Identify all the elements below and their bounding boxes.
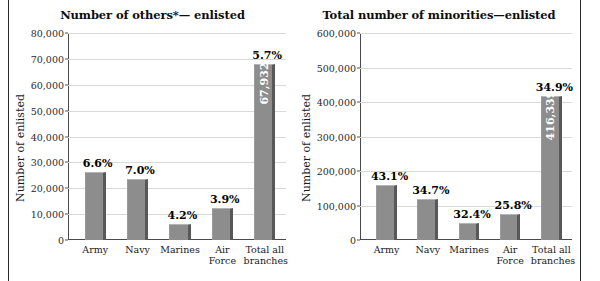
x-tick-label: Marines	[448, 244, 489, 255]
y-tick-label: 70,000	[31, 53, 64, 64]
y-axis-label: Number of enlisted	[14, 94, 27, 202]
x-tick-label: AirForce	[490, 244, 531, 266]
x-tick-label: Total allbranches	[531, 244, 572, 266]
bar[interactable]	[169, 224, 190, 240]
bar-slot[interactable]: 32.4%Marines	[448, 33, 489, 240]
bar-slot[interactable]: 4.2%Marines	[159, 33, 201, 240]
bar-series: 43.1%Army34.7%Navy32.4%Marines25.8%AirFo…	[360, 33, 572, 240]
bar-value-label: 416,339	[544, 91, 557, 141]
x-tick-label: Navy	[116, 244, 158, 255]
bar[interactable]	[459, 223, 480, 240]
bar[interactable]	[376, 185, 397, 240]
x-tick-label: Total allbranches	[244, 244, 286, 266]
y-axis-label: Number of enlisted	[300, 94, 313, 202]
chart-panel-minorities: Total number of minorities—enlisted Numb…	[298, 0, 580, 281]
bar-slot[interactable]: 6.6%Army	[74, 33, 116, 240]
bar-percent-label: 43.1%	[371, 170, 408, 183]
chart-title: Number of others*— enlisted	[10, 8, 295, 22]
bar-percent-label: 25.8%	[495, 199, 532, 212]
x-tick-label: Army	[366, 244, 407, 255]
y-tick-label: 30,000	[31, 157, 64, 168]
bar-slot[interactable]: 34.7%Navy	[407, 33, 448, 240]
bar-slot[interactable]: 67,9325.7%Total allbranches	[244, 33, 286, 240]
bar-slot[interactable]: 7.0%Navy	[116, 33, 158, 240]
y-tick-label: 0	[58, 235, 64, 246]
y-tick-label: 600,000	[317, 28, 356, 39]
y-tick-label: 50,000	[31, 105, 64, 116]
right-border-rule	[580, 0, 581, 281]
y-tick-label: 100,000	[317, 200, 356, 211]
bar-percent-label: 5.7%	[252, 49, 282, 62]
bar-series: 6.6%Army7.0%Navy4.2%Marines3.9%AirForce6…	[68, 33, 286, 240]
bar-value-label: 67,932	[257, 63, 270, 105]
bar[interactable]	[212, 208, 233, 240]
bar-percent-label: 6.6%	[83, 157, 113, 170]
left-border-rule	[8, 0, 9, 281]
x-tick-label: Marines	[159, 244, 201, 255]
bar[interactable]	[85, 172, 106, 240]
plot-area: 010,00020,00030,00040,00050,00060,00070,…	[68, 33, 286, 240]
y-tick-label: 400,000	[317, 97, 356, 108]
bar-slot[interactable]: 3.9%AirForce	[201, 33, 243, 240]
figure-canvas: Number of others*— enlisted Number of en…	[0, 0, 600, 281]
y-tick-label: 500,000	[317, 62, 356, 73]
y-tick-label: 80,000	[31, 28, 64, 39]
bar-slot[interactable]: 43.1%Army	[366, 33, 407, 240]
bar-slot[interactable]: 25.8%AirForce	[490, 33, 531, 240]
y-tick-label: 0	[350, 235, 356, 246]
bar-percent-label: 7.0%	[125, 164, 155, 177]
x-tick-label: Navy	[407, 244, 448, 255]
bar[interactable]	[417, 199, 438, 240]
bar-percent-label: 3.9%	[210, 193, 240, 206]
bar[interactable]: 67,932	[254, 64, 275, 240]
bar[interactable]	[127, 179, 148, 240]
y-tick-label: 40,000	[31, 131, 64, 142]
bar-percent-label: 34.7%	[412, 184, 449, 197]
chart-title: Total number of minorities—enlisted	[298, 8, 580, 22]
bar-percent-label: 4.2%	[168, 209, 198, 222]
bar-slot[interactable]: 416,33934.9%Total allbranches	[531, 33, 572, 240]
x-tick-label: AirForce	[201, 244, 243, 266]
y-tick-label: 300,000	[317, 131, 356, 142]
bar[interactable]: 416,339	[541, 96, 562, 240]
y-tick-label: 20,000	[31, 183, 64, 194]
chart-panel-others: Number of others*— enlisted Number of en…	[10, 0, 295, 281]
plot-area: 0100,000200,000300,000400,000500,000600,…	[360, 33, 572, 240]
y-tick-label: 200,000	[317, 166, 356, 177]
y-tick-label: 10,000	[31, 209, 64, 220]
bar-percent-label: 32.4%	[453, 208, 490, 221]
bar-percent-label: 34.9%	[536, 81, 573, 94]
x-tick-label: Army	[74, 244, 116, 255]
bar[interactable]	[500, 214, 521, 240]
y-tick-label: 60,000	[31, 79, 64, 90]
